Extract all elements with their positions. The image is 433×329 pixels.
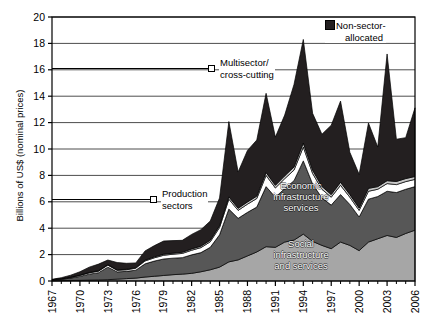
callout-leader-multisector (52, 68, 210, 69)
y-tick-label: 6 (39, 195, 45, 207)
x-tick-label: 1979 (157, 290, 169, 314)
x-tick-label: 1988 (241, 290, 253, 314)
y-tick-label: 8 (39, 169, 45, 181)
x-tick-label: 2003 (381, 290, 393, 314)
x-tick-label: 1967 (46, 290, 58, 314)
x-tick-label: 1985 (213, 290, 225, 314)
y-tick-label: 14 (33, 90, 45, 102)
area-label-social-infrastructure: Social infrastructure and services (246, 238, 356, 271)
y-tick-label: 16 (33, 63, 45, 75)
y-tick-label: 4 (39, 222, 45, 234)
x-axis: 1967197019731976197919821985198819911994… (46, 281, 421, 313)
x-tick-label: 2006 (409, 290, 421, 314)
callout-production-line2: sectors (162, 200, 193, 211)
open-square-marker-production (150, 196, 157, 203)
area-label-social-line1: Social (288, 238, 314, 249)
callout-leader-production (52, 199, 152, 200)
y-tick-label: 12 (33, 116, 45, 128)
area-label-economic-infrastructure: Economic infrastructure services (246, 180, 356, 213)
legend-non-sector-allocated: Non-sector- allocated (325, 20, 386, 43)
area-label-economic-line3: services (284, 202, 319, 213)
area-label-economic-line2: infrastructure (273, 191, 328, 202)
y-axis: 02468101214161820 (33, 11, 52, 287)
x-tick-label: 1991 (269, 290, 281, 314)
y-tick-label: 10 (33, 143, 45, 155)
x-tick-label: 1976 (130, 290, 142, 314)
area-label-economic-line1: Economic (280, 180, 322, 191)
legend-non-sector-line1: Non-sector- (336, 20, 386, 31)
callout-multisector-line2: cross-cutting (220, 69, 274, 80)
y-tick-label: 0 (39, 275, 45, 287)
callout-multisector-line1: Multisector/ (220, 57, 269, 68)
x-tick-label: 1997 (325, 290, 337, 314)
x-tick-label: 1973 (102, 290, 114, 314)
y-tick-label: 18 (33, 37, 45, 49)
y-tick-label: 2 (39, 248, 45, 260)
area-label-social-line2: infrastructure (273, 249, 328, 260)
legend-non-sector-line2: allocated (345, 32, 383, 43)
y-tick-label: 20 (33, 11, 45, 23)
x-tick-label: 2000 (353, 290, 365, 314)
stacked-area-plot: 0246810121416182019671970197319761979198… (0, 0, 433, 329)
x-tick-label: 1982 (185, 290, 197, 314)
callout-multisector: Multisector/ cross-cutting (219, 57, 275, 80)
callout-production-line1: Production (162, 188, 207, 199)
x-tick-label: 1994 (297, 290, 309, 314)
open-square-marker-multisector (208, 65, 215, 72)
callout-production: Production sectors (161, 188, 208, 211)
chart-figure: Billions of US$ (nominal prices) 0246810… (0, 0, 433, 329)
x-tick-label: 1970 (74, 290, 86, 314)
filled-black-square-icon (325, 20, 335, 30)
area-label-social-line3: and services (274, 260, 327, 271)
